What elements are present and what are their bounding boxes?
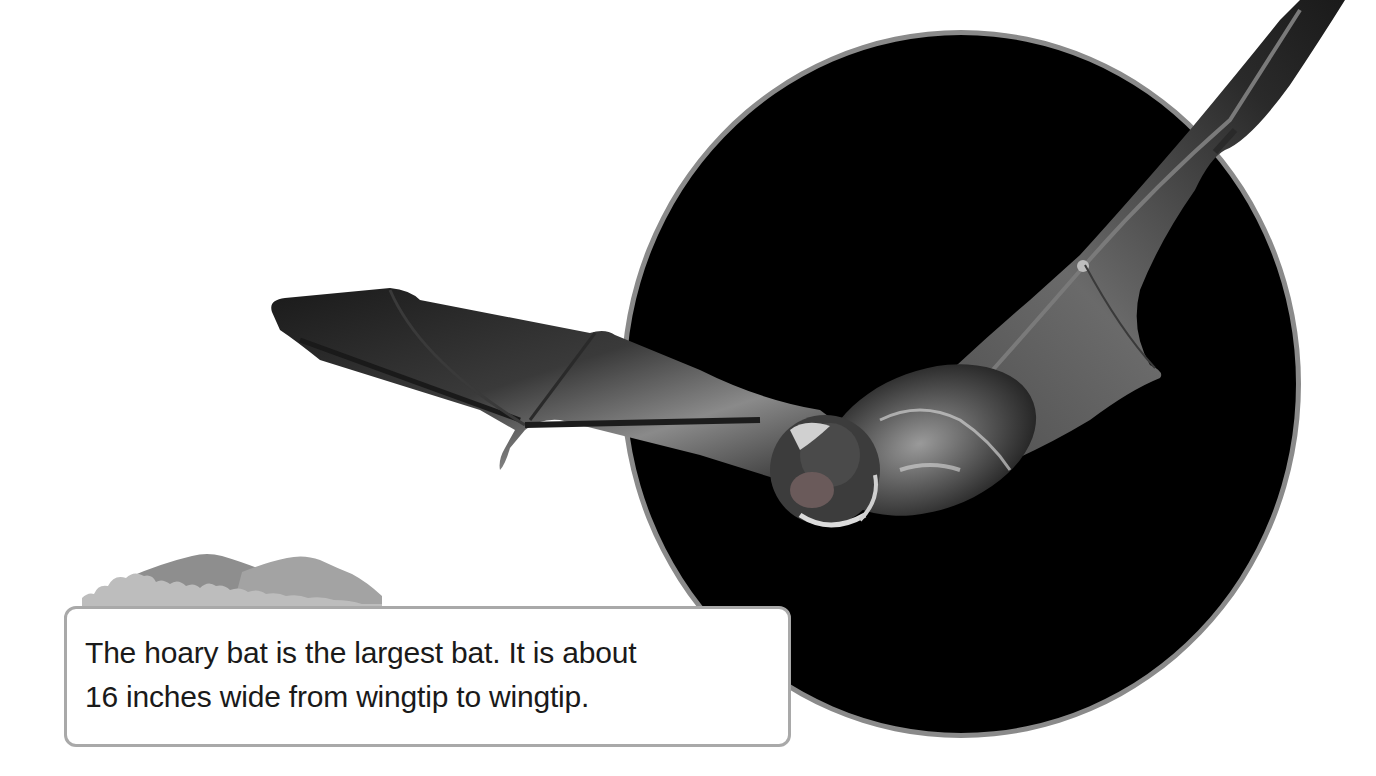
caption-text: The hoary bat is the largest bat. It is … <box>85 631 785 719</box>
mountains-icon <box>82 548 382 610</box>
caption-line-2: 16 inches wide from wingtip to wingtip. <box>85 675 785 719</box>
page: The hoary bat is the largest bat. It is … <box>0 0 1376 776</box>
caption-line-1: The hoary bat is the largest bat. It is … <box>85 631 785 675</box>
caption-box: The hoary bat is the largest bat. It is … <box>64 606 791 747</box>
